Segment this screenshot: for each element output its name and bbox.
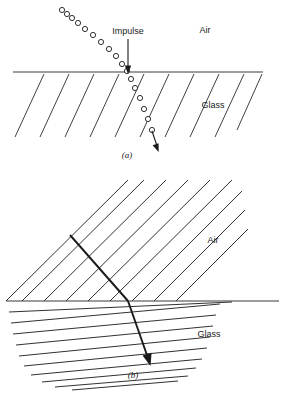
label-air-b: Air	[208, 235, 219, 245]
refraction-figure: Air Glass Impulse (a)	[0, 0, 285, 393]
panel-caption-b: (b)	[128, 370, 139, 380]
exit-arrow-a	[152, 131, 159, 152]
label-glass-b: Glass	[197, 329, 221, 339]
glass-wavefronts-b	[9, 302, 232, 390]
refracted-corpuscle-train-a	[128, 76, 154, 132]
panel-a-corpuscular-model: Air Glass Impulse (a)	[0, 0, 285, 180]
label-air-a: Air	[200, 25, 211, 35]
panel-caption-a: (a)	[122, 150, 133, 160]
glass-hatching-a	[15, 74, 262, 137]
panel-b-wave-model: Air Glass (b)	[0, 180, 285, 393]
incident-corpuscle-train-a	[59, 7, 129, 73]
label-glass-a: Glass	[201, 100, 225, 110]
label-impulse-a: Impulse	[112, 26, 144, 36]
